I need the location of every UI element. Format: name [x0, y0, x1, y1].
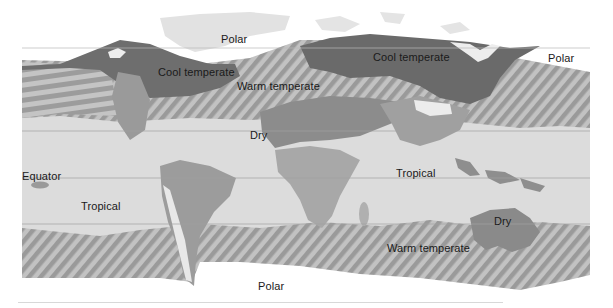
- climate-zone-map: [0, 0, 613, 308]
- madagascar: [359, 202, 369, 226]
- label-equator: Equator: [22, 170, 61, 182]
- label-warm-temperate-south: Warm temperate: [387, 242, 470, 254]
- label-tropical-east: Tropical: [396, 167, 436, 179]
- label-cool-temperate-america: Cool temperate: [158, 66, 235, 78]
- bottom-rule: [18, 302, 503, 303]
- label-polar-north-america: Polar: [221, 33, 247, 45]
- label-cool-temperate-eurasia: Cool temperate: [373, 51, 450, 63]
- label-dry-australia: Dry: [494, 215, 511, 227]
- polar-land-north: [160, 12, 290, 52]
- label-polar-south: Polar: [258, 280, 284, 292]
- equator-island: [31, 182, 49, 189]
- polar-islands-eurasia: [315, 12, 470, 34]
- label-tropical-west: Tropical: [81, 200, 121, 212]
- label-warm-temperate-north: Warm temperate: [237, 80, 320, 92]
- label-polar-northeast: Polar: [548, 52, 574, 64]
- label-dry-africa: Dry: [250, 129, 267, 141]
